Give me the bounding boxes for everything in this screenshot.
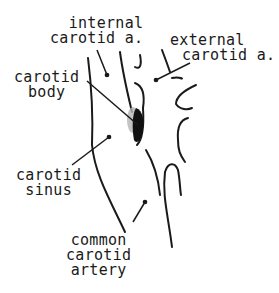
carotid-diagram: internal carotid a. external carotid a. … xyxy=(0,0,279,293)
label-external-carotid-line2: carotid a. xyxy=(182,48,275,63)
external-branch-1 xyxy=(172,77,182,78)
adjacent-vessel xyxy=(164,164,181,247)
label-carotid-sinus: carotid sinus xyxy=(16,168,81,198)
internal-carotid-right-wall xyxy=(120,52,132,112)
vessel-left-wall xyxy=(88,58,125,232)
external-carotid-left-wall xyxy=(162,50,170,72)
leader-common-carotid xyxy=(133,202,145,222)
leader-internal-carotid xyxy=(97,50,107,75)
label-common-carotid-line3: artery xyxy=(66,263,131,278)
common-carotid-right-wall xyxy=(146,150,160,195)
label-external-carotid: external carotid a. xyxy=(170,33,275,63)
label-carotid-body-line2: body xyxy=(14,85,79,100)
label-common-carotid: common carotid artery xyxy=(66,233,131,278)
leader-carotid-sinus xyxy=(72,137,109,165)
label-internal-carotid-line2: carotid a. xyxy=(50,31,143,46)
vessel-j-curve xyxy=(135,55,141,68)
external-branch-3 xyxy=(178,118,188,162)
label-internal-carotid: internal carotid a. xyxy=(38,16,143,46)
label-carotid-body: carotid body xyxy=(14,70,79,100)
external-branch-2 xyxy=(176,85,196,109)
label-carotid-sinus-line2: sinus xyxy=(16,183,81,198)
